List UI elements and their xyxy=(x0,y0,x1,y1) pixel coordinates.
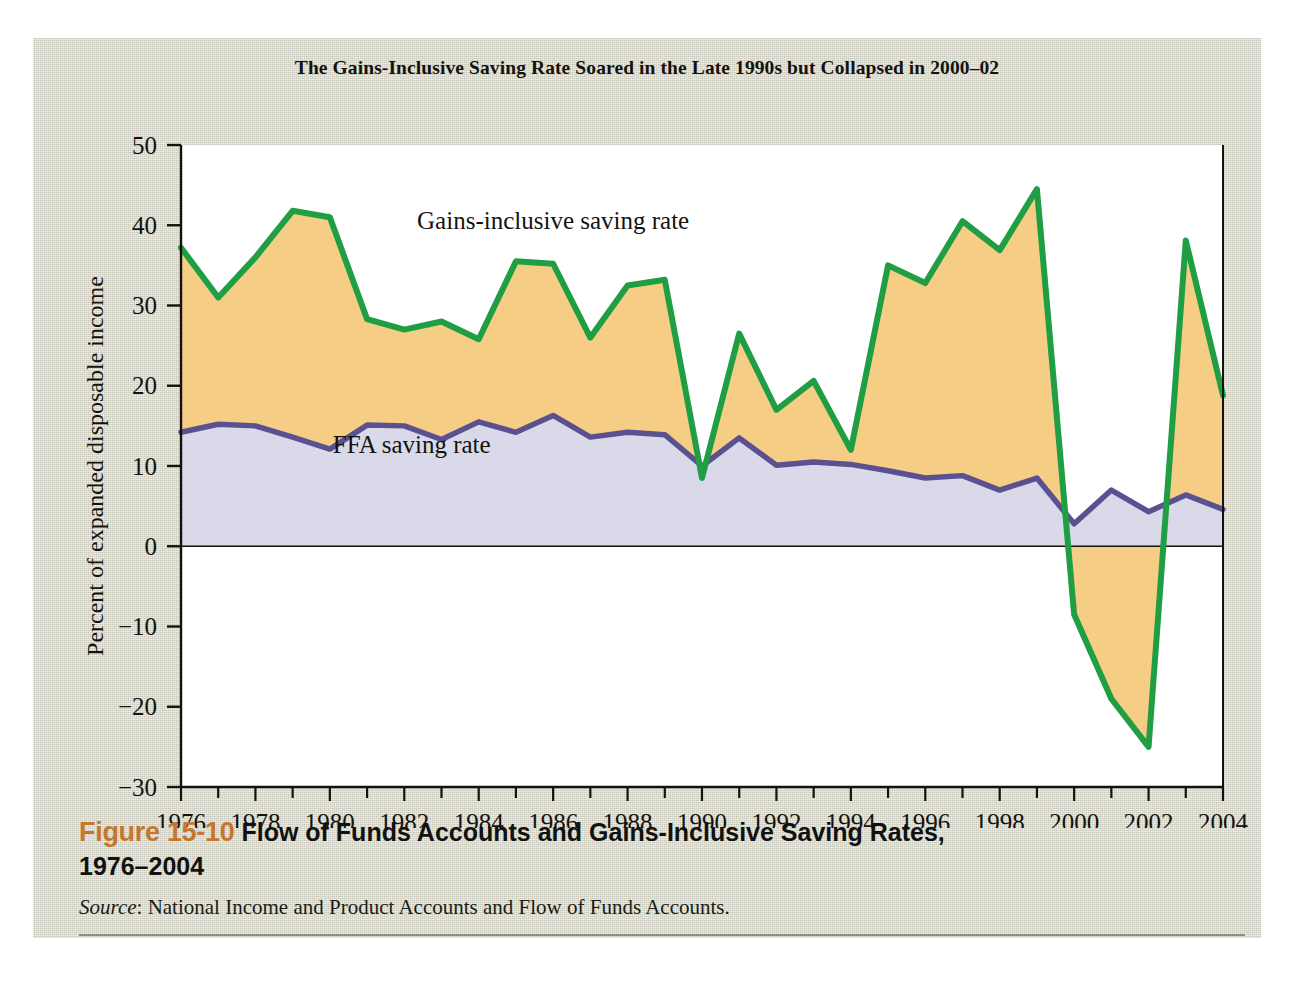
y-tick-label: −30 xyxy=(118,774,157,801)
y-tick-label: −10 xyxy=(118,613,157,640)
source-label: Source xyxy=(79,895,137,919)
chart-plot-area: 50403020100−10−20−3019761978198019821984… xyxy=(33,38,1261,828)
y-tick-label: 40 xyxy=(132,212,157,239)
y-axis-title-text: Percent of expanded disposable income xyxy=(82,276,108,656)
y-axis-title: Percent of expanded disposable income xyxy=(82,276,108,656)
caption-bottom-rule xyxy=(79,934,1245,936)
caption-text-2: 1976–2004 xyxy=(79,851,1229,882)
source-line: Source: National Income and Product Acco… xyxy=(79,895,1229,920)
saving-rate-area-chart: 50403020100−10−20−3019761978198019821984… xyxy=(33,38,1261,828)
source-text: : National Income and Product Accounts a… xyxy=(137,895,730,919)
y-tick-label: 0 xyxy=(145,533,158,560)
gains-inclusive-series-label: Gains-inclusive saving rate xyxy=(417,207,689,234)
y-tick-label: 30 xyxy=(132,292,157,319)
figure-number: Figure 15-10 xyxy=(79,817,234,847)
y-tick-label: 10 xyxy=(132,453,157,480)
figure-caption: Figure 15-10 Flow of Funds Accounts and … xyxy=(79,816,1229,920)
ffa-series-label: FFA saving rate xyxy=(333,431,491,458)
figure-page: The Gains-Inclusive Saving Rate Soared i… xyxy=(0,0,1295,990)
figure-panel: The Gains-Inclusive Saving Rate Soared i… xyxy=(33,38,1261,938)
caption-line-1: Figure 15-10 Flow of Funds Accounts and … xyxy=(79,816,1229,849)
y-tick-label: −20 xyxy=(118,693,157,720)
caption-text-1: Flow of Funds Accounts and Gains-Inclusi… xyxy=(241,818,944,846)
y-tick-label: 20 xyxy=(132,372,157,399)
y-tick-label: 50 xyxy=(132,132,157,159)
